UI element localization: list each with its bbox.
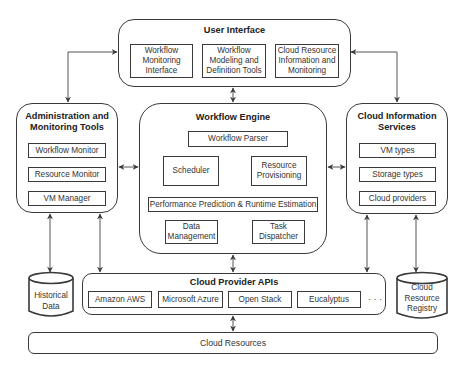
workflow-engine-title: Workflow Engine (140, 112, 326, 123)
cloud-provider-apis-panel: Cloud Provider APIs Amazon AWS Microsoft… (82, 273, 386, 315)
workflow-modeling-tools-box: Workflow Modeling and Definition Tools (202, 44, 266, 78)
workflow-engine-panel: Workflow Engine Workflow Parser Schedule… (139, 103, 327, 254)
resource-provisioning-box: Resource Provisioning (251, 156, 307, 186)
open-stack-box: Open Stack (228, 291, 292, 308)
cloud-info-title: Cloud Information Services (347, 111, 447, 133)
workflow-monitor-box: Workflow Monitor (28, 143, 106, 158)
resource-monitor-box: Resource Monitor (28, 167, 106, 182)
historical-data-label: Historical Data (31, 291, 71, 312)
data-management-box: Data Management (165, 220, 218, 244)
workflow-parser-box: Workflow Parser (188, 131, 288, 147)
user-interface-title: User Interface (119, 25, 350, 36)
cloud-resource-registry-label: Cloud Resource Registry (398, 283, 446, 315)
microsoft-azure-box: Microsoft Azure (158, 291, 223, 308)
admin-tools-panel: Administration and Monitoring Tools Work… (16, 103, 118, 213)
user-interface-panel: User Interface Workflow Monitoring Inter… (118, 19, 351, 87)
vm-manager-box: VM Manager (28, 191, 106, 206)
workflow-monitoring-interface-box: Workflow Monitoring Interface (130, 44, 193, 78)
more-providers-ellipsis: · · · (366, 294, 384, 304)
scheduler-box: Scheduler (163, 156, 219, 186)
cloud-provider-apis-title: Cloud Provider APIs (83, 277, 385, 288)
cloud-providers-box: Cloud providers (359, 191, 436, 206)
cloud-resources-label: Cloud Resources (200, 338, 266, 348)
eucalyptus-box: Eucalyptus (297, 291, 361, 308)
performance-prediction-box: Performance Prediction & Runtime Estimat… (148, 197, 318, 212)
cloud-resource-info-box: Cloud Resource Information and Monitorin… (275, 44, 339, 78)
amazon-aws-box: Amazon AWS (88, 291, 152, 308)
cloud-info-panel: Cloud Information Services VM types Stor… (346, 103, 448, 214)
vm-types-box: VM types (359, 143, 436, 158)
storage-types-box: Storage types (359, 167, 436, 182)
task-dispatcher-box: Task Dispatcher (252, 220, 305, 244)
cloud-resources-bar: Cloud Resources (28, 332, 438, 354)
admin-tools-title: Administration and Monitoring Tools (17, 111, 117, 133)
